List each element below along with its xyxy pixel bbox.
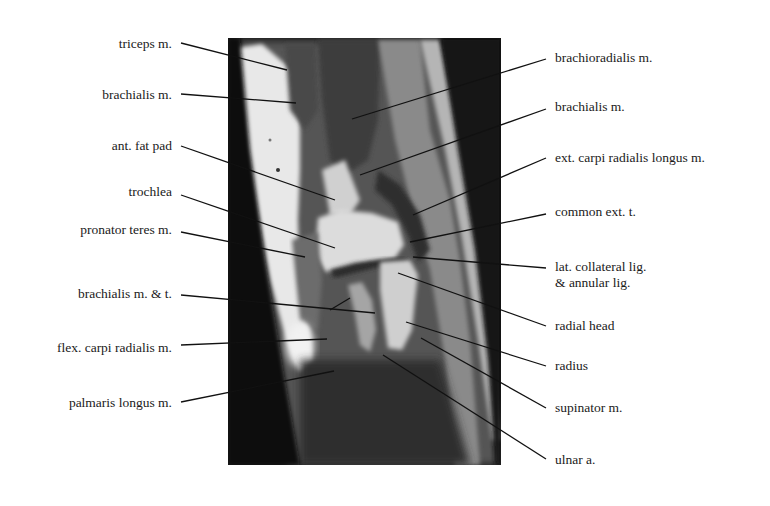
leader-line-brachialis-tendon [181, 295, 375, 313]
label-annular-lig: & annular lig. [555, 275, 630, 291]
leader-line-common-ext-tendon [410, 214, 546, 242]
leader-line-pronator-teres [181, 232, 305, 257]
leader-line-brachioradialis [352, 59, 546, 119]
leader-line-ext-carpi-radialis-longus [413, 158, 546, 215]
label-radius: radius [555, 358, 588, 374]
label-brachioradialis: brachioradialis m. [555, 50, 652, 66]
leader-line-brachialis-left [181, 94, 296, 103]
leader-line-ulnar-artery [383, 355, 546, 459]
leader-line-radius [406, 322, 546, 366]
label-palmaris-longus: palmaris longus m. [69, 395, 172, 411]
label-trochlea: trochlea [129, 184, 172, 200]
leader-branch-brachialis-tendon [330, 298, 350, 310]
label-ulnar-artery: ulnar a. [555, 452, 595, 468]
label-ext-carpi-radialis-longus: ext. carpi radialis longus m. [555, 150, 705, 166]
leader-line-ant-fat-pad [181, 146, 335, 200]
label-brachialis-tendon: brachialis m. & t. [78, 286, 172, 302]
leader-line-lat-collateral-lig [413, 257, 546, 268]
mri-figure: triceps m. brachialis m. ant. fat pad tr… [0, 0, 770, 506]
leader-line-supinator [421, 338, 546, 408]
label-flex-carpi-radialis: flex. carpi radialis m. [57, 340, 172, 356]
label-brachialis-right: brachialis m. [555, 99, 625, 115]
label-common-ext-tendon: common ext. t. [555, 204, 636, 220]
leader-lines [0, 0, 770, 506]
label-pronator-teres: pronator teres m. [80, 222, 172, 238]
leader-line-triceps [181, 43, 287, 70]
label-triceps: triceps m. [119, 36, 172, 52]
label-radial-head: radial head [555, 318, 615, 334]
leader-line-trochlea [181, 195, 335, 248]
label-brachialis-left: brachialis m. [102, 87, 172, 103]
label-ant-fat-pad: ant. fat pad [112, 138, 172, 154]
leader-line-brachialis-right [360, 109, 546, 175]
label-supinator: supinator m. [555, 400, 623, 416]
leader-line-radial-head [398, 273, 546, 326]
leader-line-palmaris-longus [181, 371, 334, 402]
leader-line-flex-carpi-radialis [181, 339, 327, 345]
label-lat-collateral-lig: lat. collateral lig. [555, 259, 646, 275]
